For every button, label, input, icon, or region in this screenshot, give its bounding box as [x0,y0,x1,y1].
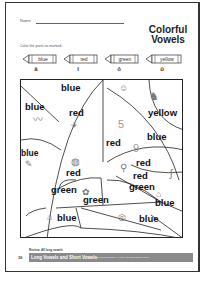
name-label: Name [20,18,31,23]
vowel-u: ū [156,66,168,72]
pencil-icon: ✎ [25,160,33,168]
crayon-key-green: green [105,54,139,64]
region-outlines [21,80,183,238]
cane-icon: ʃ [170,170,172,178]
horse-icon: ♞ [149,92,159,100]
vowel-o: ō [113,66,125,72]
review-note: Review: All long vowels [29,248,63,252]
chef-icon: ☺ [119,84,128,92]
region-label-red-five: red [106,138,121,148]
region-label-blue-house: blue [57,213,77,223]
footer-title: Long Vowels and Short Vowels [31,255,97,260]
region-label-green-rope: green [51,185,77,195]
region-label-red-nine: red [136,158,151,168]
region-label-red-kite: red [69,108,84,118]
vowel-a: ā [30,66,42,72]
region-label-blue-pencil: blue [21,148,38,158]
region-label-blue-cane: blue [155,198,175,208]
number-five-icon: 5 [118,120,124,128]
flower-icon: ✿ [82,188,90,196]
globe-icon: ◍ [71,158,80,166]
bicycle-icon: ⚲ [120,164,127,172]
region-label-yellow-horse: yellow [148,108,177,118]
region-label-red-globe: red [66,168,81,178]
instructions: Color the parts as marked. [20,44,62,48]
page-title: Colorful Vowels [138,25,198,45]
footer-fine-print: Total Reading Grade 1 - Long Vowels and … [95,256,149,258]
footer-bar: Long Vowels and Short Vowels Total Readi… [29,253,193,262]
name-field[interactable] [36,23,124,24]
region-label-blue-top: blue [61,83,81,93]
region-label-blue-snail: blue [139,214,159,224]
page-number: 36 [18,255,22,260]
crayon-key-blue: blue [23,54,57,64]
kite-icon: ✈ [71,122,78,130]
worm-icon: 〰 [33,116,43,124]
vowel-i: ī [72,66,84,72]
number-nine-icon: 9 [133,144,139,152]
crayon-key-red: red [64,54,98,64]
region-label-red-bike: red [133,171,148,181]
coloring-picture: blue blue 〰 red ✈ 5 red ☺ ♞ yellow blue … [20,79,183,238]
house-icon: ⌂ [47,213,52,221]
region-label-blue-worm: blue [25,102,45,112]
crayon-key-yellow: yellow [146,54,182,64]
region-label-blue-right: blue [147,132,167,142]
region-label-green-coat: green [129,182,155,192]
snail-icon: ◎ [118,213,126,221]
